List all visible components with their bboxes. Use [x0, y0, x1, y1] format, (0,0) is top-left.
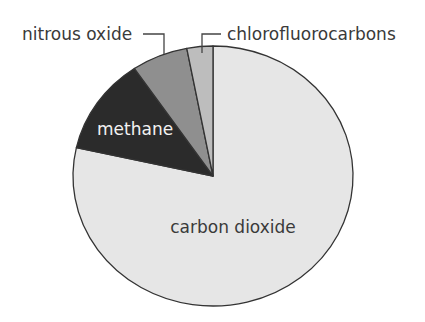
label-chlorofluorocarbons: chlorofluorocarbons: [227, 24, 396, 44]
pie-chart: nitrous oxide chlorofluorocarbons methan…: [0, 0, 425, 322]
pie-slices: [73, 46, 353, 306]
label-methane: methane: [97, 119, 173, 139]
leader-line-nitrous-oxide: [143, 34, 164, 54]
label-carbon-dioxide: carbon dioxide: [170, 217, 296, 237]
label-nitrous-oxide: nitrous oxide: [22, 24, 132, 44]
